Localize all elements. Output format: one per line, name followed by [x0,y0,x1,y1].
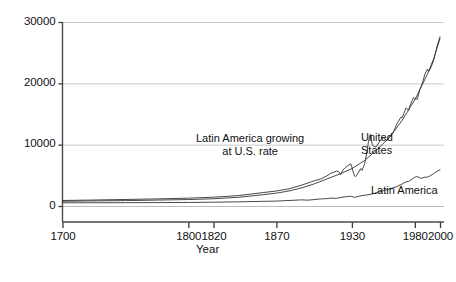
x-axis-label: Year [196,243,219,255]
x-tick-label: 1870 [247,230,307,242]
y-tick-label: 10000 [24,137,55,149]
x-tick-label: 1820 [184,230,244,242]
y-tick-label: 30000 [24,15,55,27]
x-tick-label: 1930 [322,230,382,242]
chart-figure: GDP per Capita Year 0100002000030000 170… [0,0,456,282]
annotation-latin-america: Latin America [371,184,438,197]
series-lines [63,37,441,203]
x-tick-label: 1700 [33,230,93,242]
y-tick-label: 20000 [24,76,55,88]
y-tick-label: 0 [49,199,55,211]
annotation-latin-america-counterfactual: Latin America growingat U.S. rate [196,132,304,157]
x-tick-label: 2000 [411,230,456,242]
x-axis-ticks [63,222,441,228]
gridlines [63,23,445,207]
annotation-united-states: UnitedStates [361,131,393,156]
